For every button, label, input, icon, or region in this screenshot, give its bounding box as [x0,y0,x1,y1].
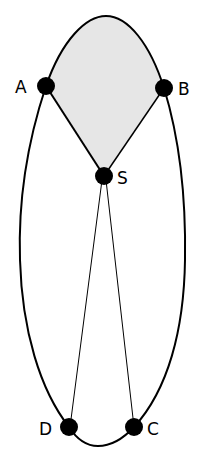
point-b [155,79,173,97]
point-d [60,418,78,436]
label-b: B [178,79,190,99]
diagram-canvas: A B S D C [0,0,206,456]
shaded-region [46,16,164,176]
segment-s-d [70,180,102,427]
label-c: C [147,419,159,439]
point-a [37,77,55,95]
label-s: S [117,168,128,188]
segment-s-c [106,180,134,427]
point-s [95,167,113,185]
label-a: A [15,77,27,97]
point-c [125,418,143,436]
label-d: D [39,419,52,439]
